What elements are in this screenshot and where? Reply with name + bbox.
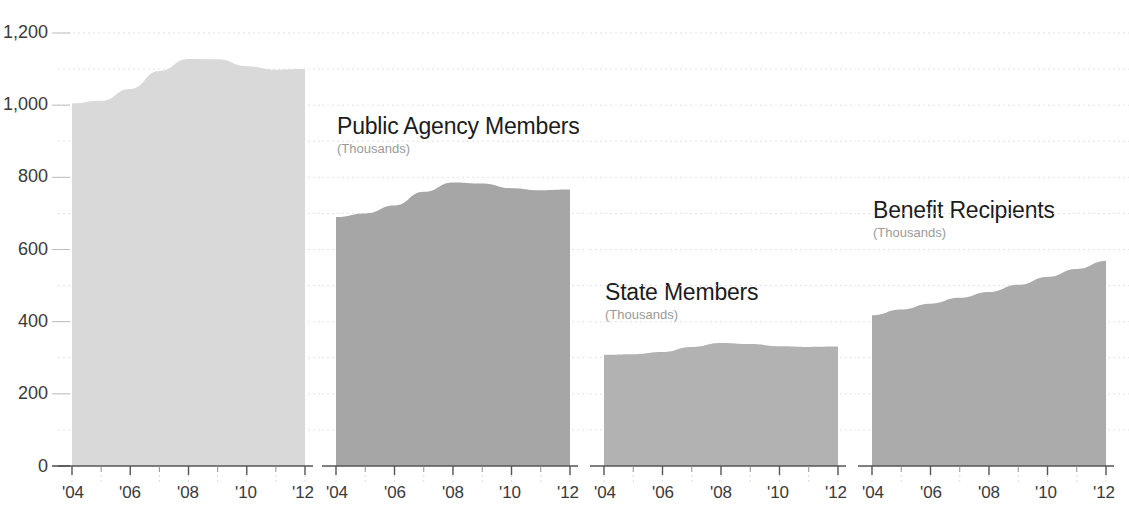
panel-4: Benefit Recipients (Thousands) '04 '06 '…	[856, 0, 1129, 521]
panel-4-xtick-04: '04	[853, 483, 893, 503]
panel-1-plot	[0, 0, 320, 521]
panel-4-xtick-08: '08	[969, 483, 1009, 503]
panel-1-xtick-06: '06	[110, 483, 150, 503]
panel-1-xtick-10: '10	[226, 483, 266, 503]
area-series	[604, 343, 838, 466]
panel-2-xtick-10: '10	[490, 483, 530, 503]
panel-3: State Members (Thousands) '04 '06 '08 '1…	[588, 0, 856, 521]
panel-4-xtick-10: '10	[1026, 483, 1066, 503]
area-series	[872, 261, 1106, 466]
panel-3-xtick-08: '08	[701, 483, 741, 503]
panel-3-xtick-04: '04	[585, 483, 625, 503]
panel-4-plot	[856, 0, 1129, 521]
panel-1-xtick-08: '08	[168, 483, 208, 503]
panel-2-xtick-04: '04	[317, 483, 357, 503]
panel-1: (Thousands) '04 '06 '08 '10 '12	[0, 0, 320, 521]
panel-4-xtick-12: '12	[1084, 483, 1124, 503]
panel-2-xtick-08: '08	[433, 483, 473, 503]
panel-2-xtick-12: '12	[548, 483, 588, 503]
panel-1-xtick-04: '04	[53, 483, 93, 503]
multi-panel-area-chart-figure: 1,200 1,000 800 600 400 200 0 (Thousands…	[0, 0, 1129, 521]
area-series	[336, 182, 570, 466]
panel-2-xtick-06: '06	[375, 483, 415, 503]
area-series	[72, 59, 305, 466]
panel-3-xtick-12: '12	[816, 483, 856, 503]
panel-3-xtick-10: '10	[758, 483, 798, 503]
panel-3-plot	[588, 0, 856, 521]
panel-2-plot	[320, 0, 588, 521]
panel-2: Public Agency Members (Thousands) '04 '0…	[320, 0, 588, 521]
panel-4-xtick-06: '06	[911, 483, 951, 503]
panel-3-xtick-06: '06	[643, 483, 683, 503]
